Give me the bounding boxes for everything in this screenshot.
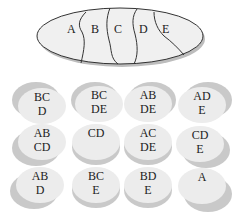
disc-abd: ABD bbox=[10, 167, 62, 207]
disc-abcd: ABCD bbox=[12, 124, 64, 164]
disc-a: A bbox=[178, 168, 230, 208]
disc-line1: AB bbox=[140, 88, 157, 102]
region-label-b: B bbox=[91, 22, 99, 36]
disc-line1: CD bbox=[192, 128, 209, 142]
disc-line2: CD bbox=[34, 140, 51, 154]
region-label-d: D bbox=[139, 22, 148, 36]
disc-line1: CD bbox=[88, 126, 105, 140]
disc-ade: ADE bbox=[178, 82, 230, 122]
disc-line2: E bbox=[198, 103, 205, 117]
disc-bcd: BCD bbox=[12, 82, 64, 122]
disc-line1: AB bbox=[32, 169, 49, 183]
disc-cd: CD bbox=[70, 124, 122, 164]
disc-acde: ACDE bbox=[122, 124, 174, 164]
disc-bde: BDE bbox=[122, 167, 174, 207]
disc-line2: D bbox=[38, 104, 47, 118]
disc-line1: BC bbox=[34, 90, 50, 104]
main-ellipse bbox=[37, 8, 203, 64]
disc-line2: DE bbox=[140, 102, 156, 116]
disc-line2: DE bbox=[140, 140, 156, 154]
disc-line1: AC bbox=[140, 126, 157, 140]
disc-line2: E bbox=[92, 183, 99, 197]
disc-bce: BCE bbox=[70, 167, 122, 207]
disc-line2: E bbox=[144, 183, 151, 197]
disc-line2: D bbox=[36, 183, 45, 197]
disc-line2: E bbox=[196, 142, 203, 156]
disc-line1: AB bbox=[34, 126, 51, 140]
disc-line1: A bbox=[198, 170, 207, 184]
disc-line1: BD bbox=[140, 169, 157, 183]
disc-bcde: BCDE bbox=[71, 82, 123, 122]
disc-line1: AD bbox=[193, 89, 210, 103]
disc-line1: BC bbox=[91, 88, 107, 102]
region-label-c: C bbox=[114, 22, 122, 36]
disc-line1: BC bbox=[88, 169, 104, 183]
disc-abde: ABDE bbox=[124, 82, 176, 122]
region-label-a: A bbox=[67, 22, 76, 36]
disc-cde: CDE bbox=[176, 126, 228, 166]
disc-line2: DE bbox=[91, 102, 107, 116]
region-label-e: E bbox=[162, 22, 169, 36]
